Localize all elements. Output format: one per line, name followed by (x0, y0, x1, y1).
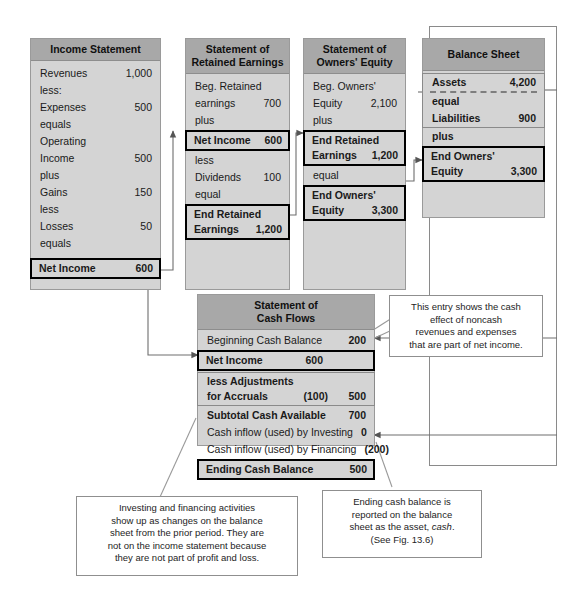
row-value: 50 (132, 219, 152, 234)
row-expenses: Expenses 500 (31, 99, 160, 116)
row-value: 500 (341, 462, 367, 477)
row-label: less Adjustments (207, 374, 294, 389)
row-label: End Retained (312, 133, 379, 148)
panel-cash-flows: Statement of Cash Flows Beginning Cash B… (197, 294, 375, 446)
row-revenues: Revenues 1,000 (31, 65, 160, 82)
row-net-income: Net Income 600 (30, 258, 161, 279)
row-label: equals (40, 236, 71, 251)
note-line-3: sheet as the asset, (349, 521, 429, 532)
row-beginning-cash-balance: Beginning Cash Balance 200 (198, 330, 374, 350)
row-losses: Losses 50 (31, 218, 160, 235)
row-cash-investing: Cash inflow (used) by Investing 0 (198, 424, 374, 441)
row-label: equal (313, 168, 339, 183)
row-less-adjustments: less Adjustments (198, 373, 374, 389)
row-dividends: Dividends 100 (186, 169, 289, 186)
row-label: Equity (431, 164, 463, 179)
row-value: 700 (340, 408, 366, 423)
row-label: Liabilities (432, 111, 480, 126)
row-less-2: less (31, 201, 160, 218)
row-plus: plus (423, 128, 544, 145)
note-line-1: This entry shows the cash (396, 301, 536, 314)
row-label: Equity (313, 96, 342, 111)
cash-flows-title: Statement of Cash Flows (198, 295, 374, 330)
row-end-retained-line2: Earnings 1,200 (194, 222, 282, 237)
cash-flows-rows: Beginning Cash Balance 200 Net Income 60… (198, 330, 374, 480)
note-line-2: show up as changes on the balance (83, 515, 291, 528)
balance-sheet-rows: Assets 4,200 equal Liabilities 900 plus (423, 71, 544, 182)
income-statement-title: Income Statement (31, 39, 160, 61)
row-label: Earnings (312, 148, 357, 163)
row-label: equals (40, 117, 71, 132)
row-plus: plus (304, 112, 405, 129)
row-end-retained-line1: End Retained (194, 207, 282, 222)
row-value: 600 (297, 353, 367, 368)
note-line-3: revenues and expenses (396, 326, 536, 339)
row-value: 600 (127, 261, 153, 276)
row-label: End Owners' (312, 188, 376, 203)
row-value: 4,200 (502, 75, 536, 90)
note-line-2: reported on the balance (329, 509, 475, 522)
assets-equals-liabilities-group: Assets 4,200 equal Liabilities 900 (422, 73, 545, 128)
row-value: 150 (126, 185, 152, 200)
note-line-5: they are not part of profit and loss. (83, 552, 291, 565)
wire-oe-to-bs (405, 160, 422, 181)
row-value: 700 (255, 96, 281, 111)
owners-equity-rows: Beg. Owners' Equity 2,100 plus End Retai… (304, 74, 405, 221)
row-label: less (195, 153, 214, 168)
row-plus: plus (186, 112, 289, 129)
owners-equity-title: Statement of Owners' Equity (304, 39, 405, 74)
row-value: 900 (510, 111, 536, 126)
note-line-3-wrap: sheet as the asset, cash. (329, 521, 475, 534)
panel-balance-sheet: Balance Sheet Assets 4,200 equal Liabili… (422, 38, 545, 218)
row-label: Net Income (206, 353, 263, 368)
note-line-3: sheet from the prior period. They are (83, 527, 291, 540)
note-line-1: Investing and financing activities (83, 502, 291, 515)
note-ending-cash-balance: Ending cash balance is reported on the b… (322, 490, 482, 558)
row-gains: Gains 150 (31, 184, 160, 201)
row-equal: equal (423, 93, 544, 110)
note-investing-financing: Investing and financing activities show … (76, 496, 298, 576)
row-value: 100 (255, 170, 281, 185)
row-label: plus (195, 113, 214, 128)
retained-earnings-rows: Beg. Retained earnings 700 plus Net Inco… (186, 74, 289, 240)
row-label: Cash inflow (used) by Financing (207, 442, 356, 457)
row-label: Ending Cash Balance (206, 462, 313, 477)
panel-income-statement: Income Statement Revenues 1,000 less: Ex… (30, 38, 161, 290)
row-label: Earnings (194, 222, 239, 237)
row-value: (200) (356, 442, 389, 457)
row-value: 500 (126, 151, 152, 166)
row-for-accruals: for Accruals (100) 500 (198, 389, 374, 405)
row-label: for Accruals (207, 389, 268, 404)
title-line-1: Statement of (188, 43, 287, 56)
row-label: End Retained (194, 207, 261, 222)
row-beg-retained: Beg. Retained (186, 78, 289, 95)
row-end-retained-line1: End Retained (312, 133, 398, 148)
row-less-1: less: (31, 82, 160, 99)
note-line-2: effect of noncash (396, 314, 536, 327)
row-label: End Owners' (431, 149, 495, 164)
row-label: Income (40, 151, 74, 166)
row-value: 3,300 (503, 164, 537, 179)
row-label: equal (432, 94, 459, 109)
row-equal: equal (304, 167, 405, 184)
row-value-secondary: 500 (328, 389, 366, 404)
row-value: 200 (340, 333, 366, 348)
row-end-retained-earnings: End Retained Earnings 1,200 (185, 204, 290, 240)
row-end-owners-line2: Equity 3,300 (431, 164, 537, 179)
row-value: 1,000 (118, 66, 152, 81)
row-label: Dividends (195, 170, 241, 185)
row-equals-1: equals (31, 116, 160, 133)
row-equal: equal (186, 186, 289, 203)
leader-investing (160, 418, 196, 497)
row-subtotal-cash-available: Subtotal Cash Available 700 (198, 407, 374, 424)
row-label: less: (40, 83, 62, 98)
title-line-1: Statement of (306, 43, 403, 56)
row-end-owners-line2: Equity 3,300 (312, 203, 398, 218)
row-value: 1,200 (248, 222, 282, 237)
row-label: Net Income (39, 261, 96, 276)
row-value: 0 (353, 425, 367, 440)
row-label: Net Income (194, 133, 251, 148)
row-label: plus (313, 113, 332, 128)
row-label: Gains (40, 185, 67, 200)
row-plus: plus (31, 167, 160, 184)
